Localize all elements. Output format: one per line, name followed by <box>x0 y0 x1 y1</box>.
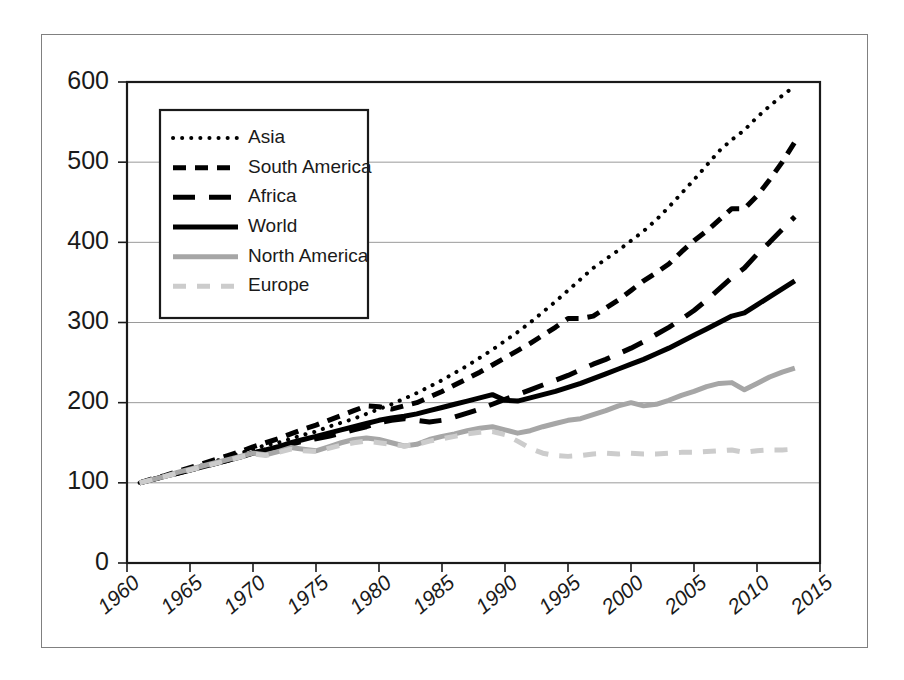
ytick-label-500: 500 <box>67 146 109 174</box>
series-line-europe <box>140 432 795 483</box>
ytick-label-0: 0 <box>95 547 109 575</box>
line-chart: 0100200300400500600196019651970197519801… <box>0 0 904 680</box>
legend-label-europe: Europe <box>248 274 309 295</box>
chart-page: 0100200300400500600196019651970197519801… <box>0 0 904 680</box>
xtick-label-2000: 2000 <box>596 570 648 618</box>
legend-label-africa: Africa <box>248 185 297 206</box>
legend-label-world: World <box>248 215 297 236</box>
ytick-label-200: 200 <box>67 386 109 414</box>
xtick-label-1975: 1975 <box>282 570 333 618</box>
legend-label-south-america: South America <box>248 156 372 177</box>
xtick-label-2015: 2015 <box>785 570 837 618</box>
ytick-label-600: 600 <box>67 66 109 94</box>
legend-label-asia: Asia <box>248 126 285 147</box>
xtick-label-1980: 1980 <box>345 570 396 618</box>
xtick-label-2010: 2010 <box>722 570 774 618</box>
xtick-label-1970: 1970 <box>219 570 270 618</box>
xtick-label-2005: 2005 <box>659 570 711 618</box>
xtick-label-1990: 1990 <box>471 570 522 618</box>
series-line-north-america <box>140 368 795 483</box>
xtick-label-1960: 1960 <box>93 570 144 618</box>
xtick-label-1995: 1995 <box>534 570 585 618</box>
xtick-label-1965: 1965 <box>156 570 207 618</box>
xtick-label-1985: 1985 <box>408 570 459 618</box>
ytick-label-300: 300 <box>67 306 109 334</box>
ytick-label-100: 100 <box>67 466 109 494</box>
ytick-label-400: 400 <box>67 226 109 254</box>
legend-label-north-america: North America <box>248 245 369 266</box>
